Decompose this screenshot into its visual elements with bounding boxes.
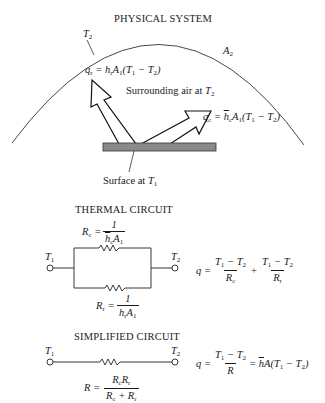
surface-leader-line <box>129 151 134 172</box>
thermal-node-t1: T1 <box>45 252 54 264</box>
thermal-equation-q: q = <box>196 266 211 277</box>
simplified-circuit-title: SIMPLIFIED CIRCUIT <box>74 332 180 343</box>
simplified-equation-q: q = <box>196 359 211 370</box>
rr-symbol: Rr = <box>96 301 114 313</box>
diagram-graphics <box>0 0 325 403</box>
thermal-node-t2: T2 <box>171 252 180 264</box>
surrounding-air-label: Surrounding air at T2 <box>126 86 214 98</box>
simplified-node-t2: T2 <box>171 346 180 358</box>
rc-fraction: 1hcA1 <box>103 219 125 246</box>
surface-label: Surface at T1 <box>103 176 157 188</box>
enclosure-temp-label: T2 <box>83 29 92 41</box>
thermal-circuit-wires <box>47 245 178 291</box>
enclosure-area-label: A2 <box>223 46 233 58</box>
thermal-eq-frac-rr: T1 − T2Rr <box>260 256 295 285</box>
r-symbol: R = <box>84 383 100 394</box>
simplified-eq-frac: T1 − T2R <box>213 349 248 376</box>
convection-arrow <box>141 111 211 144</box>
thermal-eq-plus: + <box>251 266 257 277</box>
simplified-node-t1: T1 <box>45 346 54 358</box>
physical-system-title: PHYSICAL SYSTEM <box>114 14 212 25</box>
rc-symbol: Rc = <box>82 227 101 239</box>
surface-plate <box>103 143 216 151</box>
thermal-eq-frac-rc: T1 − T2Rc <box>213 256 248 285</box>
t2-leader-line <box>87 40 94 55</box>
radiation-equation: qr = hrA1(T1 − T2) <box>85 65 160 77</box>
r-fraction: RcRrRc + Rr <box>104 374 139 403</box>
simplified-eq-rhs: = hA(T1 − T2) <box>249 359 308 371</box>
rr-fraction: 1hrA1 <box>117 293 139 320</box>
simplified-circuit-wires <box>47 359 178 365</box>
thermal-circuit-title: THERMAL CIRCUIT <box>75 205 173 216</box>
convection-equation: qc = hcA1(T1 − T2) <box>203 112 280 124</box>
